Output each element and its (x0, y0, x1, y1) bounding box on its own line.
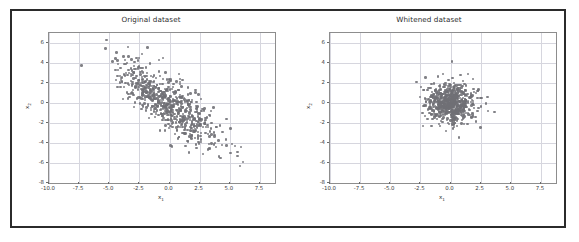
scatter-point (127, 46, 129, 48)
scatter-point (175, 103, 177, 105)
x-tick-label: -5.0 (103, 185, 114, 191)
scatter-point (123, 86, 125, 88)
x-tick-label: 7.5 (536, 185, 545, 191)
scatter-point (195, 147, 197, 149)
scatter-point (152, 89, 154, 91)
scatter-point (148, 117, 150, 119)
scatter-point (463, 83, 465, 85)
scatter-point (474, 116, 476, 118)
scatter-point (456, 95, 458, 97)
scatter-point (448, 123, 450, 125)
gridline-horizontal (49, 143, 275, 144)
scatter-point (131, 81, 133, 83)
scatter-point (456, 125, 458, 127)
scatter-point (111, 60, 113, 62)
scatter-point (181, 79, 183, 81)
scatter-point (239, 165, 241, 167)
scatter-point (438, 92, 440, 94)
scatter-point (158, 70, 160, 72)
scatter-point (177, 89, 179, 91)
y-tick-mark (46, 82, 48, 83)
y-tick-mark (327, 82, 329, 83)
scatter-point (159, 129, 161, 131)
scatter-point (225, 138, 227, 140)
x-tick-label: -5.0 (384, 185, 395, 191)
scatter-point (477, 89, 479, 91)
scatter-point (424, 115, 426, 117)
scatter-point (215, 146, 217, 148)
scatter-point (493, 111, 495, 113)
gridline-horizontal (330, 123, 556, 124)
scatter-point (425, 104, 427, 106)
scatter-point (132, 71, 134, 73)
scatter-point (229, 127, 231, 129)
scatter-point (208, 135, 210, 137)
scatter-point (170, 114, 172, 116)
scatter-point (202, 126, 204, 128)
scatter-point (451, 60, 453, 62)
x-tick-label: -2.5 (133, 185, 144, 191)
scatter-point (467, 113, 469, 115)
scatter-point (162, 57, 164, 59)
scatter-point (219, 157, 221, 159)
scatter-point (130, 67, 132, 69)
scatter-point (433, 116, 435, 118)
scatter-point (196, 108, 198, 110)
y-tick-mark (327, 102, 329, 103)
scatter-point (189, 119, 191, 121)
scatter-point (200, 132, 202, 134)
scatter-point (215, 126, 217, 128)
scatter-point (426, 89, 428, 91)
x-tick-mark (259, 182, 260, 184)
scatter-point (185, 108, 187, 110)
scatter-point (473, 107, 475, 109)
x-tick-mark (419, 182, 420, 184)
scatter-point (145, 66, 147, 68)
scatter-point (116, 59, 118, 61)
gridline-horizontal (49, 43, 275, 44)
scatter-point (463, 123, 465, 125)
scatter-point (134, 101, 136, 103)
scatter-point (150, 113, 152, 115)
scatter-point (442, 73, 444, 75)
scatter-point (167, 97, 169, 99)
scatter-point (120, 79, 122, 81)
gridline-horizontal (330, 183, 556, 184)
scatter-point (462, 80, 464, 82)
scatter-point (145, 109, 147, 111)
gridline-vertical (49, 33, 50, 183)
y-tick-mark (327, 162, 329, 163)
scatter-point (187, 103, 189, 105)
scatter-point (164, 124, 166, 126)
gridline-horizontal (49, 63, 275, 64)
scatter-point (141, 53, 143, 55)
y-tick-label: -2 (311, 119, 325, 125)
scatter-point (213, 131, 215, 133)
scatter-point (133, 61, 135, 63)
scatter-point (449, 94, 451, 96)
gridline-vertical (481, 33, 482, 183)
y-tick-mark (46, 62, 48, 63)
x-tick-label: 0.0 (445, 185, 454, 191)
scatter-point (159, 75, 161, 77)
y-tick-mark (46, 182, 48, 183)
scatter-point (430, 125, 432, 127)
y-tick-mark (327, 182, 329, 183)
scatter-point (169, 144, 171, 146)
x-tick-label: 2.5 (194, 185, 203, 191)
scatter-point (443, 91, 445, 93)
scatter-point (476, 110, 478, 112)
scatter-point (131, 84, 133, 86)
x-axis-label-original: x1 (158, 194, 164, 202)
scatter-point (191, 115, 193, 117)
scatter-point (217, 139, 219, 141)
scatter-point (132, 92, 134, 94)
scatter-point (157, 101, 159, 103)
scatter-point (207, 126, 209, 128)
scatter-point (171, 126, 173, 128)
x-tick-mark (78, 182, 79, 184)
scatter-point (458, 136, 460, 138)
scatter-point (439, 125, 441, 127)
scatter-point (203, 107, 205, 109)
scatter-point (465, 99, 467, 101)
